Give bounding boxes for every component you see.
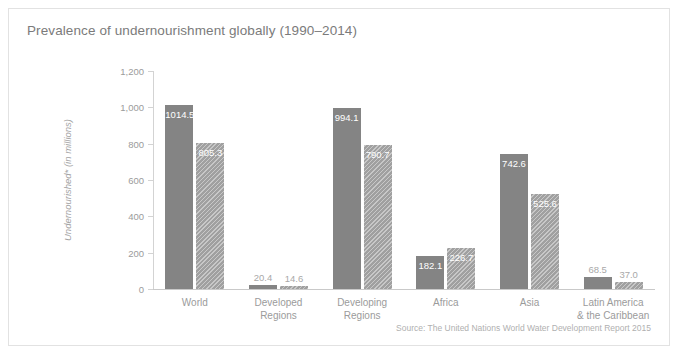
y-axis-tick-mark — [148, 253, 153, 254]
x-axis-category-label-line: Latin America — [557, 297, 669, 310]
bar-value-label: 805.3 — [196, 147, 224, 158]
bar-value-label: 226.7 — [447, 252, 475, 263]
y-axis-tick-mark — [148, 216, 153, 217]
bar-value-label: 994.1 — [333, 112, 361, 123]
y-axis-title: Undernourished* (in millions) — [61, 71, 75, 289]
bar-value-label: 1014.5 — [165, 109, 193, 120]
x-axis-line — [153, 289, 655, 290]
chart-title: Prevalence of undernourishment globally … — [27, 23, 357, 38]
bar[interactable]: 994.1 — [333, 108, 361, 289]
y-axis-tick-label: 400 — [128, 211, 144, 222]
x-axis-category-label-line: Regions — [306, 310, 418, 323]
bar-value-label: 37.0 — [609, 269, 649, 280]
y-axis-tick-mark — [148, 107, 153, 108]
y-axis-tick-label: 800 — [128, 138, 144, 149]
bar[interactable] — [249, 285, 277, 289]
source-note: Source: The United Nations World Water D… — [396, 323, 651, 333]
bar[interactable] — [280, 286, 308, 289]
y-axis-tick-label: 200 — [128, 247, 144, 258]
bar-value-label: 742.6 — [500, 158, 528, 169]
bar[interactable]: 790.7 — [364, 145, 392, 289]
bar[interactable] — [584, 277, 612, 289]
y-axis-tick-label: 600 — [128, 175, 144, 186]
bar[interactable]: 226.7 — [447, 248, 475, 289]
y-axis-line — [153, 71, 154, 289]
plot-area: 02004006008001,0001,200 1014.5805.320.41… — [153, 71, 655, 289]
bar-value-label: 14.6 — [274, 273, 314, 284]
bar-value-label: 525.6 — [531, 198, 559, 209]
x-axis-category-label: Latin America& the Caribbean — [557, 297, 669, 322]
bar[interactable]: 742.6 — [500, 154, 528, 289]
y-axis-tick-mark — [148, 180, 153, 181]
bar-value-label: 182.1 — [416, 260, 444, 271]
x-axis-category-label-line: & the Caribbean — [557, 310, 669, 323]
y-axis-tick-mark — [148, 71, 153, 72]
y-axis-tick-mark — [148, 289, 153, 290]
y-axis-tick-label: 0 — [139, 284, 144, 295]
y-axis-tick-mark — [148, 144, 153, 145]
bar[interactable]: 525.6 — [531, 194, 559, 289]
chart-figure: Prevalence of undernourishment globally … — [8, 8, 670, 346]
bar[interactable]: 182.1 — [416, 256, 444, 289]
bar[interactable] — [615, 282, 643, 289]
y-axis-tick-label: 1,000 — [120, 102, 144, 113]
bar[interactable]: 1014.5 — [165, 105, 193, 289]
y-axis-tick-label: 1,200 — [120, 66, 144, 77]
bar-value-label: 790.7 — [364, 149, 392, 160]
bar[interactable]: 805.3 — [196, 143, 224, 289]
